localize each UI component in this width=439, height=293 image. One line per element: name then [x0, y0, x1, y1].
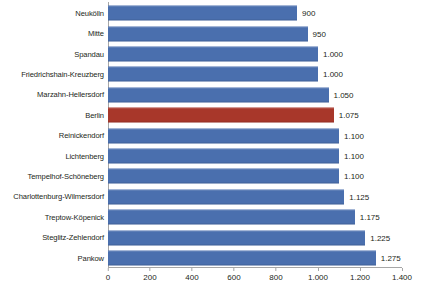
tick-mark	[107, 268, 108, 271]
bar-row: Treptow-Köpenick1.175	[0, 207, 439, 228]
value-label: 1.100	[339, 172, 364, 181]
tick-mark	[191, 268, 192, 271]
bar	[108, 230, 365, 245]
value-label: 1.075	[334, 111, 359, 120]
bar-track	[108, 47, 318, 62]
bar	[108, 189, 344, 204]
bar-track	[108, 210, 355, 225]
value-label: 900	[297, 9, 315, 18]
tick-mark	[318, 268, 319, 271]
category-label: Friedrichshain-Kreuzberg	[0, 70, 104, 79]
bar-row: Charlottenburg-Wilmersdorf1.125	[0, 187, 439, 208]
bar-chart: Neukölln900Mitte950Spandau1.000Friedrich…	[0, 0, 439, 293]
bar-row: Spandau1.000	[0, 44, 439, 65]
bar	[108, 251, 376, 266]
x-tick-label: 0	[106, 273, 110, 283]
bar-track	[108, 67, 318, 82]
bar-row: Lichtenberg1.100	[0, 146, 439, 167]
bar-track	[108, 87, 329, 102]
bar-row: Pankow1.275	[0, 248, 439, 269]
tick-mark	[233, 268, 234, 271]
x-axis-tick: 800	[269, 268, 282, 283]
value-label: 1.125	[344, 192, 369, 201]
x-axis: 02004006008001.0001.2001.400	[0, 268, 439, 293]
bar	[108, 6, 297, 21]
bar	[108, 210, 355, 225]
bar	[108, 26, 308, 41]
x-axis-tick: 1.200	[350, 268, 370, 283]
value-label: 1.225	[365, 233, 390, 242]
category-label: Spandau	[0, 50, 104, 59]
bar-highlight	[108, 108, 334, 123]
x-tick-label: 400	[185, 273, 198, 283]
plot-area: Neukölln900Mitte950Spandau1.000Friedrich…	[0, 0, 439, 270]
bar-track	[108, 189, 344, 204]
tick-mark	[275, 268, 276, 271]
category-label: Berlin	[0, 111, 104, 120]
value-label: 1.100	[339, 152, 364, 161]
value-label: 1.275	[376, 254, 401, 263]
value-label: 1.000	[318, 50, 343, 59]
x-axis-tick: 1.400	[392, 268, 412, 283]
bar	[108, 128, 339, 143]
category-label: Marzahn-Hellersdorf	[0, 90, 104, 99]
bar-row: Tempelhof-Schöneberg1.100	[0, 166, 439, 187]
bar-row: Mitte950	[0, 23, 439, 44]
value-label: 1.100	[339, 131, 364, 140]
x-tick-label: 1.200	[350, 273, 370, 283]
category-label: Lichtenberg	[0, 152, 104, 161]
category-label: Reinickendorf	[0, 131, 104, 140]
bar-track	[108, 26, 308, 41]
x-axis-tick: 1.000	[308, 268, 328, 283]
x-axis-tick: 200	[143, 268, 156, 283]
x-axis-tick: 0	[106, 268, 110, 283]
bar-track	[108, 108, 334, 123]
bar-row: Reinickendorf1.100	[0, 125, 439, 146]
bar-track	[108, 6, 297, 21]
bar-row: Friedrichshain-Kreuzberg1.000	[0, 64, 439, 85]
value-label: 1.050	[329, 90, 354, 99]
category-label: Treptow-Köpenick	[0, 213, 104, 222]
tick-mark	[149, 268, 150, 271]
bar	[108, 47, 318, 62]
bar-track	[108, 169, 339, 184]
bar-row: Marzahn-Hellersdorf1.050	[0, 85, 439, 106]
bar	[108, 87, 329, 102]
category-label: Charlottenburg-Wilmersdorf	[0, 192, 104, 201]
x-tick-label: 1.400	[392, 273, 412, 283]
x-axis-tick: 400	[185, 268, 198, 283]
bar	[108, 67, 318, 82]
value-label: 950	[308, 29, 326, 38]
category-label: Neukölln	[0, 9, 104, 18]
bar-track	[108, 230, 365, 245]
x-tick-label: 800	[269, 273, 282, 283]
category-label: Mitte	[0, 29, 104, 38]
bar-track	[108, 251, 376, 266]
tick-mark	[360, 268, 361, 271]
bar	[108, 169, 339, 184]
tick-mark	[402, 268, 403, 271]
bar-row: Steglitz-Zehlendorf1.225	[0, 227, 439, 248]
x-tick-label: 1.000	[308, 273, 328, 283]
x-axis-tick: 600	[227, 268, 240, 283]
bar-track	[108, 149, 339, 164]
value-label: 1.175	[355, 213, 380, 222]
category-label: Pankow	[0, 254, 104, 263]
x-tick-label: 600	[227, 273, 240, 283]
x-tick-label: 200	[143, 273, 156, 283]
bar-row: Berlin1.075	[0, 105, 439, 126]
bar-track	[108, 128, 339, 143]
category-label: Steglitz-Zehlendorf	[0, 233, 104, 242]
category-label: Tempelhof-Schöneberg	[0, 172, 104, 181]
bar	[108, 149, 339, 164]
value-label: 1.000	[318, 70, 343, 79]
bar-row: Neukölln900	[0, 3, 439, 24]
